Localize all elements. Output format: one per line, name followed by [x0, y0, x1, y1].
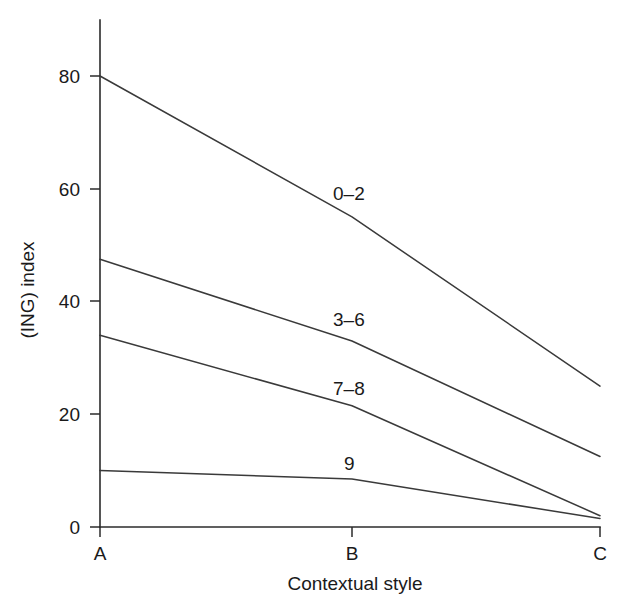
series-label-0-2: 0–2: [333, 183, 365, 204]
x-tick-label-b: B: [346, 543, 359, 564]
y-tick-label-20: 20: [59, 404, 80, 425]
line-chart-canvas: 0 20 40 60 80 A B C Contextual style (IN…: [0, 0, 618, 600]
series-line-2: [100, 335, 600, 515]
x-axis-title: Contextual style: [287, 573, 422, 594]
y-tick-label-60: 60: [59, 179, 80, 200]
series-line-1: [100, 259, 600, 456]
series-line-3: [100, 471, 600, 519]
y-tick-label-40: 40: [59, 291, 80, 312]
x-tick-label-c: C: [593, 543, 607, 564]
chart-figure: 0 20 40 60 80 A B C Contextual style (IN…: [0, 0, 618, 600]
x-tick-label-a: A: [94, 543, 107, 564]
y-tick-label-80: 80: [59, 66, 80, 87]
series-label-3-6: 3–6: [333, 309, 365, 330]
y-tick-label-0: 0: [69, 517, 80, 538]
y-axis-title: (ING) index: [17, 241, 38, 339]
series-label-9: 9: [344, 453, 355, 474]
series-label-7-8: 7–8: [333, 378, 365, 399]
